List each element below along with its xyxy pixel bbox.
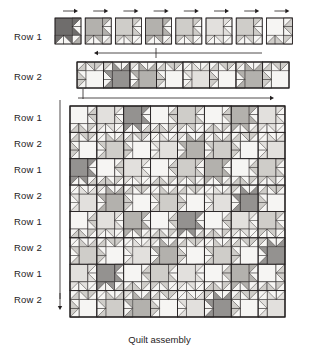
row-label-strip-2: Row 2 bbox=[14, 71, 42, 82]
row-label-1: Row 1 bbox=[14, 112, 42, 123]
row-label-strip-1: Row 1 bbox=[14, 31, 42, 42]
diagram-caption: Quilt assembly bbox=[0, 334, 319, 345]
quilt-assembly-diagram: Row 1 Row 2 Row 1 Row 2 Row 1 Row 2 Row … bbox=[0, 0, 319, 353]
strip-row-1 bbox=[55, 9, 292, 44]
strip-row-2 bbox=[77, 48, 289, 99]
row-label-8: Row 2 bbox=[14, 294, 42, 305]
row-label-3: Row 1 bbox=[14, 164, 42, 175]
row-label-2: Row 2 bbox=[14, 138, 42, 149]
row-label-7: Row 1 bbox=[14, 268, 42, 279]
quilt-diagram-canvas bbox=[0, 0, 319, 353]
row-label-6: Row 2 bbox=[14, 242, 42, 253]
row-label-5: Row 1 bbox=[14, 216, 42, 227]
row-label-4: Row 2 bbox=[14, 190, 42, 201]
quilt-body bbox=[70, 106, 285, 317]
